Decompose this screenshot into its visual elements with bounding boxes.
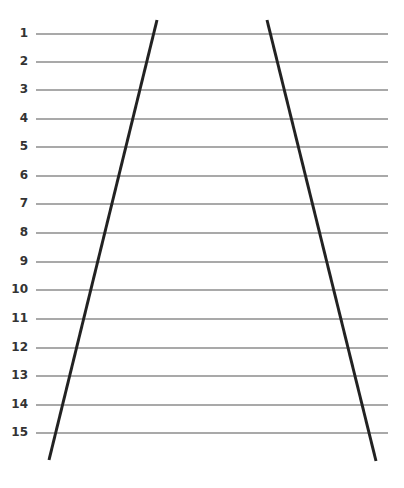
diagonal-lines <box>49 20 376 461</box>
horizontal-rules <box>36 34 388 433</box>
right-diagonal <box>267 20 376 461</box>
left-diagonal <box>49 20 157 460</box>
ruled-diagram <box>0 0 404 488</box>
